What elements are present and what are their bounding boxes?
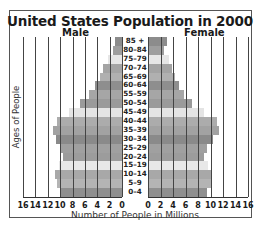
female-bar — [148, 153, 204, 162]
male-x-tick: 0 — [119, 201, 125, 210]
grid-line — [73, 37, 74, 197]
female-bar — [148, 170, 212, 179]
male-bar — [113, 46, 122, 55]
female-x-tick: 10 — [205, 201, 216, 210]
grid-line — [23, 37, 24, 197]
male-bar — [103, 64, 122, 73]
grid-line — [161, 37, 162, 197]
grid-line — [248, 37, 249, 197]
male-bar — [55, 170, 122, 179]
female-x-tick: 6 — [183, 201, 189, 210]
female-x-tick: 0 — [145, 201, 151, 210]
female-bar — [148, 179, 211, 188]
male-x-tick: 2 — [107, 201, 113, 210]
female-bar — [148, 135, 213, 144]
male-bar — [57, 179, 122, 188]
grid-line — [211, 37, 212, 197]
grid-line — [110, 37, 111, 197]
female-bar — [148, 37, 167, 46]
male-x-tick: 8 — [70, 201, 76, 210]
male-plot-area — [23, 37, 122, 197]
grid-line — [148, 37, 149, 197]
grid-line — [223, 37, 224, 197]
grid-line — [198, 37, 199, 197]
male-bar — [59, 161, 122, 170]
female-bar — [148, 81, 179, 90]
female-bar — [148, 90, 184, 99]
female-x-tick: 16 — [242, 201, 253, 210]
grid-line — [186, 37, 187, 197]
male-bar — [60, 144, 122, 153]
grid-line — [173, 37, 174, 197]
female-x-tick: 4 — [170, 201, 176, 210]
x-axis-label: Number of People in Millions — [0, 210, 260, 220]
female-bar — [148, 55, 169, 64]
grid-line — [97, 37, 98, 197]
male-x-tick: 4 — [94, 201, 100, 210]
female-x-tick: 14 — [230, 201, 241, 210]
male-bar — [57, 117, 122, 126]
grid-line — [85, 37, 86, 197]
male-bar — [69, 108, 122, 117]
grid-line — [60, 37, 61, 197]
age-group-label: 0–4 — [122, 188, 148, 197]
female-x-tick: 8 — [195, 201, 201, 210]
male-bar — [56, 135, 122, 144]
male-x-tick: 10 — [55, 201, 66, 210]
grid-line — [236, 37, 237, 197]
female-x-tick: 12 — [217, 201, 228, 210]
female-plot-area — [148, 37, 248, 197]
grid-line — [48, 37, 49, 197]
age-group-labels: 85 +80–8475–7970–7465–6960–6455–5950–544… — [122, 37, 148, 197]
male-bar — [115, 37, 122, 46]
female-bar — [148, 126, 219, 135]
male-bar — [80, 99, 122, 108]
male-bar — [53, 126, 122, 135]
female-bar — [148, 108, 204, 117]
male-bar — [89, 90, 122, 99]
y-axis-label: Ages of People — [11, 86, 21, 149]
male-bar — [61, 188, 122, 197]
female-bar — [148, 161, 208, 170]
male-bar — [100, 73, 122, 82]
grid-line — [35, 37, 36, 197]
male-x-tick: 16 — [17, 201, 28, 210]
male-x-tick: 6 — [82, 201, 88, 210]
female-x-tick: 2 — [158, 201, 164, 210]
male-x-tick: 12 — [42, 201, 53, 210]
grid-line — [122, 37, 123, 197]
male-bar — [95, 81, 122, 90]
male-x-tick: 14 — [30, 201, 41, 210]
female-bar — [148, 117, 217, 126]
